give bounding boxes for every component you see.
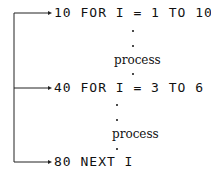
ellipsis-dot [132, 30, 134, 32]
process-label: process [112, 127, 159, 141]
process-label: process [114, 53, 161, 67]
loop-diagram: 10 FOR I = 1 TO 10 process 40 FOR I = 3 … [0, 0, 211, 177]
ellipsis-dot [116, 148, 118, 150]
ellipsis-dot [116, 119, 118, 121]
ellipsis-dot [116, 104, 118, 106]
line-80: 80 NEXT I [54, 154, 133, 169]
ellipsis-dot [132, 45, 134, 47]
line-40: 40 FOR I = 3 TO 6 [54, 80, 204, 95]
ellipsis-dot [132, 73, 134, 75]
line-10: 10 FOR I = 1 TO 10 [54, 5, 211, 20]
